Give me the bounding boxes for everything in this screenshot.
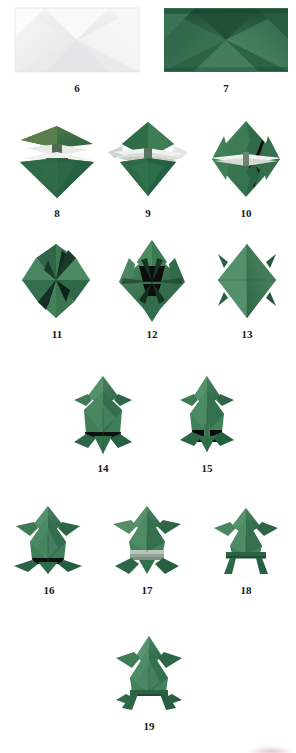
photo-step-11: [18, 240, 94, 322]
photo-step-13: [214, 240, 280, 322]
figure-step-6: [14, 6, 140, 74]
photo-step-8: [16, 118, 98, 200]
figure-step-11: [18, 240, 94, 322]
photo-step-15: [176, 374, 238, 456]
origami-instruction-page: 6: [0, 0, 296, 753]
photo-step-18: [208, 502, 284, 578]
caption-step-9: 9: [128, 207, 168, 219]
caption-step-16: 16: [29, 584, 69, 596]
photo-step-6: [14, 6, 140, 74]
caption-step-19: 19: [129, 720, 169, 732]
figure-step-17: [109, 502, 185, 578]
figure-step-16: [10, 502, 86, 578]
caption-step-18: 18: [226, 584, 266, 596]
figure-step-13: [214, 240, 280, 322]
photo-step-17: [109, 502, 185, 578]
caption-step-15: 15: [187, 462, 227, 474]
photo-step-10: [206, 118, 286, 200]
caption-step-11: 11: [37, 328, 77, 340]
figure-step-18: [208, 502, 284, 578]
figure-step-8: [16, 118, 98, 200]
caption-step-17: 17: [127, 584, 167, 596]
figure-step-12: [113, 238, 191, 324]
figure-step-15: [176, 374, 238, 456]
page-edge-smudge: [248, 746, 294, 753]
figure-step-9: [106, 118, 190, 200]
photo-step-14: [72, 374, 134, 456]
photo-step-7: [163, 6, 289, 74]
figure-step-7: [163, 6, 289, 74]
photo-step-16: [10, 502, 86, 578]
figure-step-19: [108, 630, 190, 714]
caption-step-8: 8: [37, 207, 77, 219]
caption-step-6: 6: [57, 82, 97, 94]
caption-step-13: 13: [227, 328, 267, 340]
caption-step-7: 7: [206, 82, 246, 94]
caption-step-12: 12: [132, 328, 172, 340]
photo-step-9: [106, 118, 190, 200]
photo-step-19: [108, 630, 190, 714]
caption-step-14: 14: [83, 462, 123, 474]
figure-step-14: [72, 374, 134, 456]
figure-step-10: [206, 118, 286, 200]
photo-step-12: [113, 238, 191, 324]
caption-step-10: 10: [226, 207, 266, 219]
